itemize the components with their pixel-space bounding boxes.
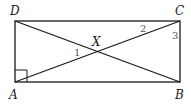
vertex-label-b: B — [174, 88, 184, 102]
angle-label-2: 2 — [140, 23, 146, 34]
vertex-label-d: D — [9, 4, 20, 18]
rectangle-diagram: D C A B X 1 2 3 — [0, 0, 191, 106]
vertex-label-c: C — [175, 4, 184, 18]
intersection-label-x: X — [91, 35, 101, 49]
angle-label-3: 3 — [172, 30, 178, 41]
vertex-label-a: A — [8, 88, 18, 102]
angle-label-1: 1 — [74, 47, 80, 58]
